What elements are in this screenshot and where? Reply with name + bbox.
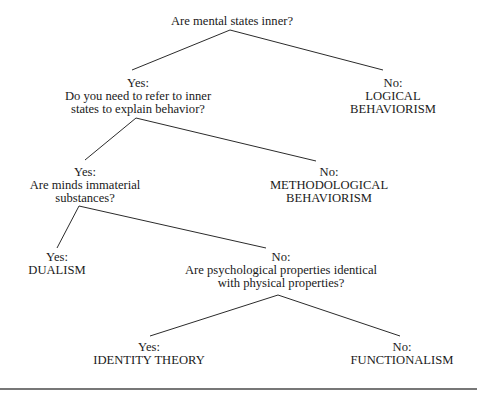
node-q1-yes: Yes: Do you need to refer to inner state…	[18, 77, 258, 117]
edge-q4-no	[278, 295, 400, 336]
node-q1-no-logical-behaviorism: No: LOGICAL BEHAVIORISM	[273, 77, 477, 117]
node-q2-no-methodological-behaviorism: No: METHODOLOGICAL BEHAVIORISM	[209, 166, 449, 206]
root-question-node: Are mental states inner?	[112, 15, 352, 28]
node-q3-yes-dualism: Yes: DUALISM	[0, 251, 177, 277]
conclusion-line: FUNCTIONALISM	[282, 354, 477, 367]
edge-q4-yes	[150, 295, 278, 336]
edge-q3-no	[79, 206, 266, 248]
decision-tree-diagram: Are mental states inner? Yes: Do you nee…	[0, 0, 477, 395]
node-q4-yes-identity-theory: Yes: IDENTITY THEORY	[29, 341, 269, 367]
root-question-text: Are mental states inner?	[112, 15, 352, 28]
node-q3-no: No: Are psychological properties identic…	[161, 251, 401, 291]
answer-label: Yes:	[0, 251, 177, 264]
conclusion-line: IDENTITY THEORY	[29, 354, 269, 367]
question-line: substances?	[0, 192, 205, 205]
question-line: with physical properties?	[161, 277, 401, 290]
edge-q2-no	[136, 118, 316, 161]
edge-q3-yes	[57, 206, 79, 248]
conclusion-line: BEHAVIORISM	[273, 103, 477, 116]
question-line: states to explain behavior?	[18, 103, 258, 116]
edge-q1-no	[230, 30, 383, 70]
node-q4-no-functionalism: No: FUNCTIONALISM	[282, 341, 477, 367]
conclusion-line: DUALISM	[0, 264, 177, 277]
conclusion-line: BEHAVIORISM	[209, 192, 449, 205]
edge-q1-yes	[132, 30, 230, 70]
edge-q2-yes	[85, 118, 136, 160]
node-q2-yes: Yes: Are minds immaterial substances?	[0, 166, 205, 206]
bottom-divider	[0, 388, 477, 390]
